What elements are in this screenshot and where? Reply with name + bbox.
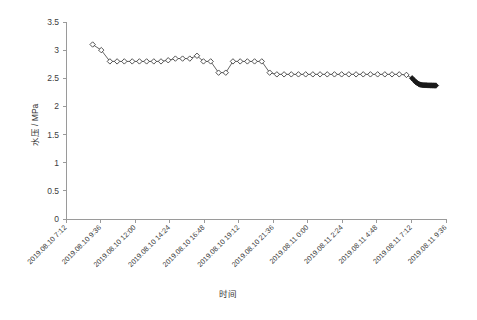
y-axis-title: 水压 / MPa (30, 103, 40, 146)
y-tick-label: 0.5 (47, 186, 59, 196)
y-tick-label: 3.5 (47, 17, 59, 27)
y-tick-label: 3 (54, 45, 59, 55)
x-axis-title: 时间 (219, 289, 237, 299)
pressure-time-chart: 00.511.522.533.5 2019.08.10 7:122019.08.… (0, 0, 477, 320)
y-tick-label: 1.5 (47, 130, 59, 140)
y-tick-label: 2.5 (47, 73, 59, 83)
y-tick-label: 2 (54, 101, 59, 111)
y-tick-label: 1 (54, 158, 59, 168)
y-tick-label: 0 (54, 214, 59, 224)
chart-canvas: 00.511.522.533.5 2019.08.10 7:122019.08.… (0, 0, 477, 320)
plot-background (0, 0, 477, 320)
